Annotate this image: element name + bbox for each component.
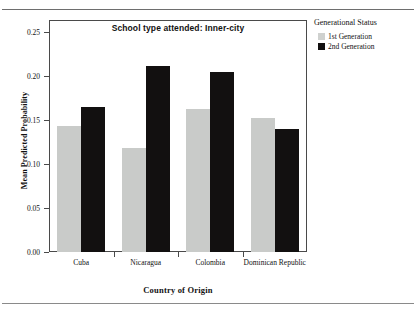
- y-tick-label: 0.20: [27, 72, 40, 81]
- y-tick-mark: [44, 252, 49, 253]
- legend-item: 2nd Generation: [318, 42, 414, 51]
- legend: Generational Status 1st Generation2nd Ge…: [314, 18, 414, 52]
- bar-cuba-gen2: [81, 107, 105, 252]
- y-tick-label: 0.05: [27, 204, 40, 213]
- bar-cuba-gen1: [57, 126, 81, 252]
- bar-nicaragua-gen2: [146, 66, 170, 252]
- x-axis-label: Country of Origin: [49, 285, 307, 295]
- chart-page: School type attended: Inner-city 0.000.0…: [0, 0, 416, 313]
- legend-item-label: 1st Generation: [328, 32, 372, 41]
- y-tick-label: 0.25: [27, 28, 40, 37]
- bar-plot-area: [49, 20, 307, 252]
- legend-swatch-icon: [318, 43, 325, 50]
- bar-colombia-gen2: [210, 72, 234, 252]
- legend-item-label: 2nd Generation: [328, 42, 374, 51]
- bottom-rule: [2, 303, 414, 304]
- bar-dominican-republic-gen1: [251, 118, 275, 252]
- y-tick-label: 0.15: [27, 116, 40, 125]
- bar-dominican-republic-gen2: [275, 129, 299, 252]
- y-tick-label: 0.10: [27, 160, 40, 169]
- x-tick-mark: [243, 252, 244, 257]
- legend-entries: 1st Generation2nd Generation: [314, 32, 414, 51]
- x-tick-mark: [114, 252, 115, 257]
- x-category-label: Nicaragua: [114, 258, 179, 268]
- y-axis-label: Mean Predicted Probability: [20, 71, 29, 211]
- x-category-label: Colombia: [178, 258, 243, 268]
- legend-swatch-icon: [318, 33, 325, 40]
- top-rule: [2, 9, 414, 10]
- bar-nicaragua-gen1: [122, 148, 146, 252]
- y-tick-label: 0.00: [27, 248, 40, 257]
- legend-item: 1st Generation: [318, 32, 414, 41]
- x-category-label: Dominican Republic: [243, 258, 308, 268]
- bar-colombia-gen1: [186, 109, 210, 252]
- x-tick-mark: [178, 252, 179, 257]
- cropped-header-text: [28, 0, 398, 8]
- x-category-label: Cuba: [49, 258, 114, 268]
- legend-title: Generational Status: [314, 18, 414, 27]
